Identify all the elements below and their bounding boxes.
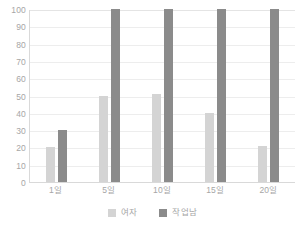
y-axis-tick-80: 80 [0, 41, 26, 50]
bar-여자-5일[interactable] [99, 96, 108, 183]
bar-작업남-20일[interactable] [270, 9, 279, 182]
bar-작업남-1일[interactable] [58, 130, 67, 182]
bar-작업남-10일[interactable] [164, 9, 173, 182]
bar-group [83, 10, 136, 182]
legend-label: 여자 [121, 208, 137, 217]
bar-여자-1일[interactable] [46, 147, 55, 182]
bar-여자-10일[interactable] [152, 94, 161, 182]
bar-group [30, 10, 83, 182]
y-axis-tick-labels: 1009080706050403020100 [0, 10, 26, 184]
x-axis-tick-1일: 1일 [29, 185, 82, 195]
bar-여자-20일[interactable] [258, 146, 267, 182]
legend-item-작업남[interactable]: 작업남 [159, 208, 197, 217]
legend-item-여자[interactable]: 여자 [108, 208, 137, 217]
y-axis-tick-70: 70 [0, 58, 26, 67]
x-axis-tick-5일: 5일 [82, 185, 135, 195]
x-axis-tick-20일: 20일 [242, 185, 295, 195]
bar-group [242, 10, 295, 182]
bar-작업남-5일[interactable] [111, 9, 120, 182]
legend-swatch-icon [159, 209, 167, 217]
y-axis-tick-90: 90 [0, 23, 26, 32]
y-axis-tick-20: 20 [0, 144, 26, 153]
x-axis-tick-15일: 15일 [189, 185, 242, 195]
plot-area [29, 10, 295, 183]
legend-swatch-icon [108, 209, 116, 217]
y-axis-tick-100: 100 [0, 6, 26, 15]
bar-여자-15일[interactable] [205, 113, 214, 182]
bar-작업남-15일[interactable] [217, 9, 226, 182]
bar-chart: 1009080706050403020100 1일5일10일15일20일 여자작… [0, 0, 305, 238]
y-axis-tick-60: 60 [0, 75, 26, 84]
y-axis-tick-10: 10 [0, 162, 26, 171]
bar-groups [30, 10, 295, 182]
legend-label: 작업남 [172, 208, 197, 217]
y-axis-tick-40: 40 [0, 110, 26, 119]
y-axis-tick-0: 0 [0, 179, 26, 188]
x-axis-tick-10일: 10일 [135, 185, 188, 195]
y-axis-tick-30: 30 [0, 127, 26, 136]
y-axis-tick-50: 50 [0, 93, 26, 102]
x-axis-tick-labels: 1일5일10일15일20일 [29, 185, 295, 195]
bar-group [136, 10, 189, 182]
chart-legend: 여자작업남 [0, 208, 305, 217]
plot-wrapper: 1009080706050403020100 1일5일10일15일20일 [0, 0, 305, 196]
bar-group [189, 10, 242, 182]
